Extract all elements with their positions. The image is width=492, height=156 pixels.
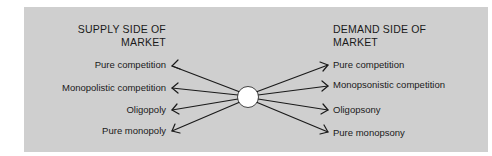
- center-node-circle: [238, 87, 259, 108]
- demand-heading-line1: DEMAND SIDE OF: [333, 23, 426, 36]
- supply-heading-line1: SUPPLY SIDE OF: [78, 23, 166, 36]
- supply-item-oligopoly: Oligopoly: [126, 104, 166, 116]
- supply-item-pure-competition: Pure competition: [95, 59, 166, 71]
- arrow-to-pure-monopsony: [256, 102, 328, 134]
- demand-side-heading: DEMAND SIDE OF MARKET: [333, 23, 426, 49]
- demand-item-monopsonistic-competition: Monopsonistic competition: [333, 79, 445, 91]
- demand-heading-line2: MARKET: [333, 36, 426, 49]
- arrow-to-monopolistic-competition: [172, 83, 238, 95]
- supply-item-monopolistic-competition: Monopolistic competition: [62, 82, 166, 94]
- supply-side-heading: SUPPLY SIDE OF MARKET: [78, 23, 166, 49]
- demand-item-pure-monopsony: Pure monopsony: [333, 127, 405, 139]
- arrow-to-pure-competition-supply: [172, 60, 240, 92]
- supply-item-pure-monopoly: Pure monopoly: [102, 125, 166, 137]
- supply-heading-line2: MARKET: [78, 36, 166, 49]
- arrow-to-oligopsony: [258, 99, 328, 114]
- arrow-to-pure-monopoly: [172, 102, 240, 133]
- demand-item-pure-competition: Pure competition: [333, 59, 404, 71]
- demand-item-oligopsony: Oligopsony: [333, 104, 381, 116]
- arrow-to-monopsonistic-competition: [258, 81, 328, 95]
